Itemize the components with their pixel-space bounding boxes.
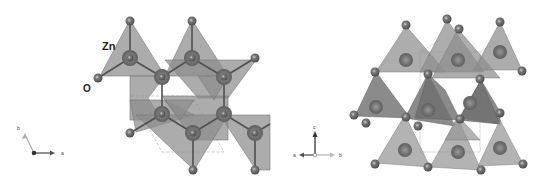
- right-panel-side-view: c a b: [293, 15, 528, 175]
- left-panel-top-view: Zn O b a: [17, 17, 270, 175]
- axis-label-a-right: a: [293, 152, 296, 158]
- o-label: O: [83, 83, 91, 94]
- axis-indicator-right: c a b: [293, 124, 342, 158]
- tetrahedra: [100, 20, 270, 170]
- zn-label: Zn: [102, 40, 116, 52]
- axis-label-a: a: [61, 150, 64, 156]
- axis-label-b: b: [17, 125, 20, 131]
- axis-label-b-right: b: [339, 152, 342, 158]
- axis-indicator-left: b a: [17, 125, 64, 156]
- axis-label-c: c: [313, 124, 316, 130]
- crystal-structure-figure: Zn O b a: [0, 0, 540, 184]
